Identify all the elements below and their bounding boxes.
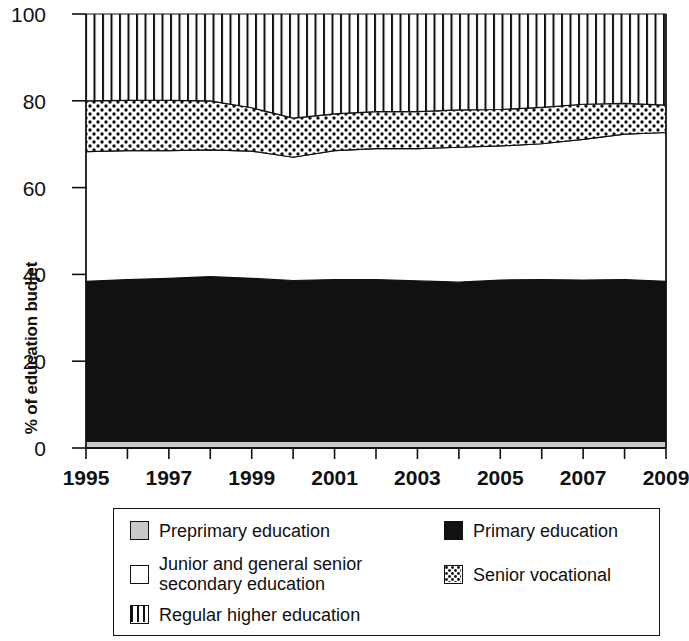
- area-junior-secondary: [86, 132, 666, 282]
- x-axis-tick-2009: 2009: [643, 466, 689, 490]
- legend-swatch-junior-secondary-icon: [130, 565, 149, 584]
- legend-label-higher-education: Regular higher education: [159, 605, 360, 625]
- stacked-areas: [86, 14, 666, 448]
- legend-item-higher-education[interactable]: Regular higher education: [130, 605, 430, 625]
- legend-item-junior-secondary[interactable]: Junior and general senior secondary educ…: [130, 554, 430, 594]
- x-axis-tick-2007: 2007: [560, 466, 607, 490]
- legend-item-senior-vocational[interactable]: Senior vocational: [444, 565, 654, 585]
- x-axis-tick-labels: 19951997199920012003200520072009: [0, 466, 688, 500]
- x-axis-tick-1995: 1995: [63, 466, 110, 490]
- x-axis-tick-1999: 1999: [228, 466, 275, 490]
- legend-swatch-senior-vocational-icon: [444, 565, 463, 584]
- x-axis-tick-2001: 2001: [311, 466, 358, 490]
- legend-label-junior-line1: Junior and general senior: [159, 554, 362, 574]
- area-primary: [86, 277, 666, 442]
- legend-label-primary: Primary education: [473, 521, 618, 541]
- x-axis-tick-2003: 2003: [394, 466, 441, 490]
- legend-label-senior-vocational: Senior vocational: [473, 565, 611, 585]
- legend-label-junior-secondary: Junior and general senior secondary educ…: [159, 554, 362, 594]
- legend-item-primary[interactable]: Primary education: [444, 521, 654, 541]
- legend-swatch-primary-icon: [444, 521, 463, 540]
- legend-swatch-higher-education-icon: [130, 605, 149, 624]
- x-axis-tick-2005: 2005: [477, 466, 524, 490]
- legend-label-preprimary: Preprimary education: [159, 521, 330, 541]
- chart-legend: Preprimary education Junior and general …: [113, 508, 660, 636]
- legend-item-preprimary[interactable]: Preprimary education: [130, 521, 430, 541]
- x-axis-tick-1997: 1997: [145, 466, 192, 490]
- legend-label-junior-line2: secondary education: [159, 574, 325, 594]
- legend-swatch-preprimary-icon: [130, 521, 149, 540]
